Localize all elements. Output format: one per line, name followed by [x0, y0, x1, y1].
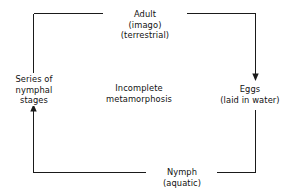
node-series-line2: nymphal: [3, 85, 65, 96]
node-adult: Adult (imago) (terrestrial): [103, 9, 187, 41]
node-adult-line3: (terrestrial): [103, 30, 187, 41]
node-adult-line2: (imago): [103, 20, 187, 31]
node-series-of-nymphal-stages: Series of nymphal stages: [3, 74, 65, 106]
node-adult-line1: Adult: [103, 9, 187, 20]
diagram-canvas: Adult (imago) (terrestrial) Eggs (laid i…: [0, 0, 294, 194]
node-nymph-line1: Nymph: [147, 167, 217, 178]
center-label-line1: Incomplete: [84, 83, 194, 94]
node-nymph: Nymph (aquatic): [147, 167, 217, 188]
node-eggs-line2: (laid in water): [208, 95, 292, 106]
diagram-center-label: Incomplete metamorphosis: [84, 83, 194, 104]
node-eggs: Eggs (laid in water): [208, 84, 292, 105]
node-series-line3: stages: [3, 95, 65, 106]
node-nymph-line2: (aquatic): [147, 178, 217, 189]
arrowhead-to-eggs: [252, 74, 258, 82]
center-label-line2: metamorphosis: [84, 94, 194, 105]
node-series-line1: Series of: [3, 74, 65, 85]
node-eggs-line1: Eggs: [208, 84, 292, 95]
